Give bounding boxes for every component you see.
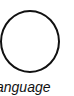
circle-node: [0, 10, 60, 73]
node-label: anguage: [0, 79, 51, 95]
